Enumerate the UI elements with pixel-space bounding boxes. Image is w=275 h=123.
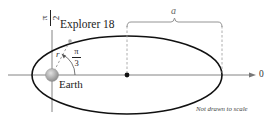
radius-label: r — [56, 49, 60, 59]
arrow-right-icon — [249, 73, 256, 78]
earth-icon — [46, 69, 59, 82]
satellite-dot — [68, 39, 72, 43]
semi-major-brace — [127, 18, 222, 73]
scale-note: Not drawn to scale — [196, 105, 248, 112]
vertical-label-numerator: π — [40, 10, 51, 26]
polar-axis — [8, 73, 256, 78]
angle-label: π 3 — [72, 47, 81, 67]
earth-label: Earth — [59, 78, 83, 90]
angle-label-numerator: π — [72, 47, 81, 58]
explorer-label: Explorer 18 — [60, 18, 115, 30]
polar-axis-label: 0 — [259, 69, 264, 79]
ellipse-center-dot — [125, 73, 130, 78]
orbit-diagram: π 2 Explorer 18 r π 3 Earth a 0 Not draw… — [0, 0, 275, 123]
arc-arrow-icon — [62, 54, 67, 59]
semi-major-label: a — [171, 5, 176, 16]
angle-label-denominator: 3 — [72, 58, 81, 68]
